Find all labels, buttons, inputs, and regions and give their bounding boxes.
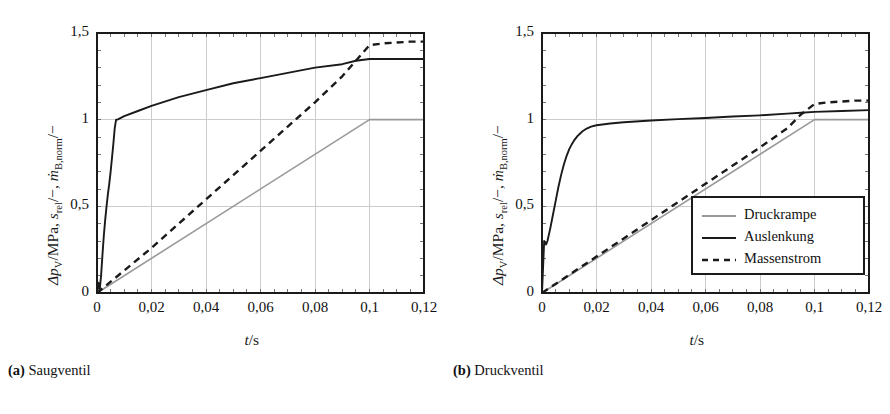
- x-axis-label-b: t/s: [690, 331, 705, 349]
- y-tick-label: 0: [486, 283, 534, 300]
- y-tick-label: 0: [41, 283, 89, 300]
- panel-caption-b: (b) Druckventil: [453, 362, 544, 379]
- x-tick-label: 0,04: [178, 299, 234, 316]
- panel-caption-a: (a) Saugventil: [8, 362, 91, 379]
- gridlines-a: [97, 33, 424, 293]
- x-tick-label: 0: [69, 299, 125, 316]
- y-tick-label: 1: [486, 110, 534, 127]
- x-tick-label: 0,02: [569, 299, 625, 316]
- panel-a-saugventil: ΔpV/MPa, srel/−, ṁB,norm/− t/s 00,020,04…: [0, 0, 445, 414]
- x-tick-label: 0,1: [787, 299, 843, 316]
- y-tick-label: 1,5: [41, 23, 89, 40]
- y-tick-label: 1,5: [486, 23, 534, 40]
- x-tick-label: 0: [514, 299, 570, 316]
- x-axis-label-a: t/s: [245, 331, 260, 349]
- panel-b-druckventil: ΔpV/MPa, srel/−, ṁB,norm/− t/s 00,020,04…: [445, 0, 890, 414]
- x-tick-label: 0,02: [124, 299, 180, 316]
- x-tick-label: 0,08: [287, 299, 343, 316]
- x-tick-label: 0,1: [342, 299, 398, 316]
- y-tick-label: 0,5: [486, 196, 534, 213]
- legend-label-massenstrom: Massenstrom: [744, 250, 821, 267]
- y-tick-label: 0,5: [41, 196, 89, 213]
- legend-label-auslenkung: Auslenkung: [744, 228, 814, 245]
- x-tick-label: 0,12: [396, 299, 452, 316]
- x-tick-label: 0,06: [678, 299, 734, 316]
- x-tick-label: 0,04: [623, 299, 679, 316]
- y-tick-label: 1: [41, 110, 89, 127]
- x-tick-label: 0,08: [732, 299, 788, 316]
- x-tick-label: 0,12: [841, 299, 890, 316]
- figure-container: ΔpV/MPa, srel/−, ṁB,norm/− t/s 00,020,04…: [0, 0, 890, 414]
- legend-label-druckrampe: Druckrampe: [744, 206, 816, 223]
- x-tick-label: 0,06: [233, 299, 289, 316]
